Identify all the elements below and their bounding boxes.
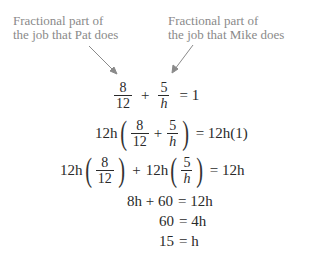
- equation-2: 12h ( 8 12 + 5 h ) = 12h(1): [95, 116, 248, 150]
- arrow-mike-icon: [175, 45, 193, 69]
- fraction-8-12: 8 12: [114, 80, 132, 111]
- equation-3: 12h ( 8 12 ) + 12h ( 5 h ) = 12h: [60, 153, 245, 187]
- equation-4: 8h + 60 = 12h: [127, 193, 213, 210]
- equation-1: 8 12 + 5 h = 1: [112, 80, 199, 111]
- arrow-pat-icon: [89, 46, 114, 71]
- equation-6: 15 = h: [159, 233, 199, 250]
- fraction-5-h: 5 h: [158, 80, 169, 111]
- equation-5: 60 = 4h: [159, 213, 206, 230]
